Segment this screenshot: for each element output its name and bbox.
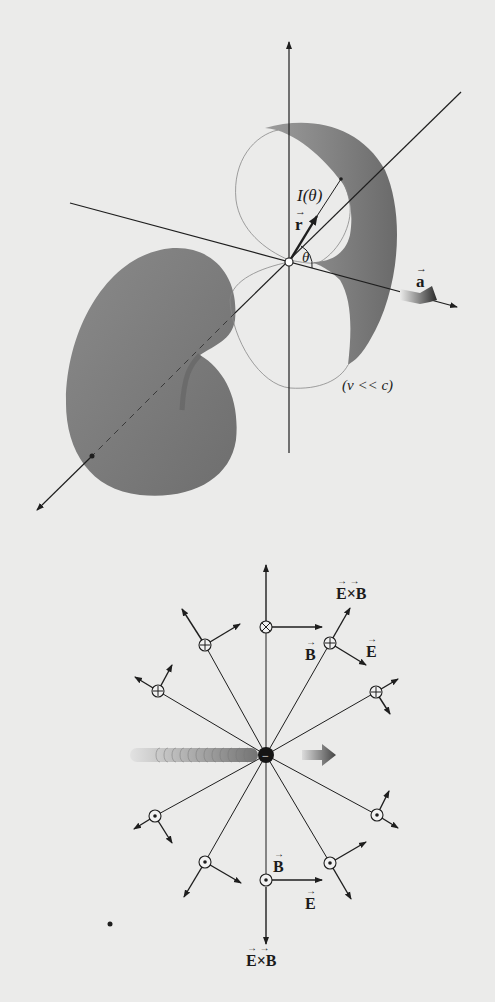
acceleration-label: a <box>416 272 425 291</box>
intensity-label: I(θ) <box>296 186 323 205</box>
upper-lobe-outline <box>236 130 289 260</box>
b-top-overarrow: → <box>306 636 316 647</box>
charge-sign: − <box>262 749 269 763</box>
overarrows-top: → → <box>337 575 360 586</box>
upper-lobe-ribbon <box>265 123 397 365</box>
b-top-label: B <box>305 646 316 663</box>
poynting-bottom-label: E×B <box>246 952 277 969</box>
b-bottom-label: B <box>273 858 284 875</box>
acceleration-overarrow: → <box>416 262 427 274</box>
into-page-markers <box>152 621 382 698</box>
e-top-overarrow: → <box>367 633 377 644</box>
diagram-canvas: I(θ) r → θ a → (v << c) <box>0 0 495 1002</box>
print-speck <box>108 922 113 927</box>
cross-marks <box>153 623 381 697</box>
r-vector-label: r <box>295 215 303 234</box>
theta-label: θ <box>302 249 310 265</box>
condition-label: (v << c) <box>342 377 393 394</box>
overarrows-bottom: → → <box>247 942 270 953</box>
e-bottom-overarrow: → <box>306 885 316 896</box>
e-top-label: E <box>366 643 377 660</box>
motion-arrow <box>302 744 336 766</box>
r-vector-overarrow: → <box>295 205 306 217</box>
lower-lobe-surface <box>66 248 237 496</box>
diagonal-axis-arrow <box>37 456 92 510</box>
radiation-pattern-figure: I(θ) r → θ a → (v << c) <box>37 42 461 510</box>
charge-origin <box>285 258 293 266</box>
motion-trail <box>130 748 258 762</box>
charge-field-figure: − E×B → → B → E → B → E → E×B → → <box>108 565 399 969</box>
poynting-top-label: E×B <box>336 585 367 602</box>
e-bottom-label: E <box>305 895 316 912</box>
b-bottom-overarrow: → <box>274 848 284 859</box>
